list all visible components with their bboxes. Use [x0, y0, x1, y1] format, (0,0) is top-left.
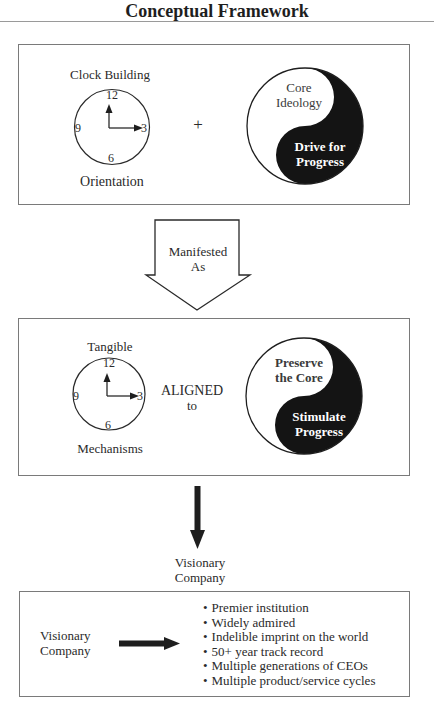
drive-for-progress-line-2: Progress [280, 154, 360, 169]
aligned-to-line-1: ALIGNED [152, 383, 232, 398]
title-divider [0, 21, 434, 22]
preserve-the-core-text: Preserve the Core [262, 355, 336, 385]
visionary-company-result-label: Visionary Company [160, 555, 240, 585]
aligned-to-text: ALIGNED to [152, 383, 232, 413]
clock-numeral-9: 9 [71, 389, 81, 404]
characteristic-item: Premier institution [203, 601, 375, 616]
characteristics-list: Premier institution Widely admired Indel… [203, 601, 375, 688]
clock-numeral-12: 12 [102, 88, 122, 103]
preserve-the-core-line-1: Preserve [262, 355, 336, 370]
orientation-label: Orientation [60, 174, 164, 189]
tangible-label: Tangible [70, 339, 150, 354]
stimulate-progress-text: Stimulate Progress [279, 409, 359, 439]
stimulate-progress-line-2: Progress [279, 424, 359, 439]
clock-numeral-12: 12 [99, 356, 119, 371]
core-ideology-line-2: Ideology [264, 95, 334, 110]
plus-operator: + [188, 117, 208, 132]
clock-numeral-6: 6 [104, 151, 118, 166]
visionary-company-result-line-2: Company [160, 570, 240, 585]
drive-for-progress-line-1: Drive for [280, 139, 360, 154]
characteristic-item: Indelible imprint on the world [203, 630, 375, 645]
clock-building-label: Clock Building [60, 67, 160, 82]
drive-for-progress-text: Drive for Progress [280, 139, 360, 169]
characteristic-item: Widely admired [203, 616, 375, 631]
characteristic-item: Multiple generations of CEOs [203, 659, 375, 674]
characteristic-item: 50+ year track record [203, 645, 375, 660]
characteristic-item: Multiple product/service cycles [203, 674, 375, 689]
mechanisms-label: Mechanisms [62, 441, 158, 456]
aligned-to-line-2: to [152, 398, 232, 413]
core-ideology-text: Core Ideology [264, 80, 334, 110]
manifested-as-line-1: Manifested [160, 244, 236, 259]
right-arrow-icon [119, 637, 181, 651]
clock-numeral-6: 6 [101, 418, 115, 433]
visionary-company-subject: Visionary Company [40, 628, 100, 658]
manifested-as-line-2: As [160, 259, 236, 274]
preserve-the-core-line-2: the Core [262, 370, 336, 385]
visionary-company-result-line-1: Visionary [160, 555, 240, 570]
stimulate-progress-line-1: Stimulate [279, 409, 359, 424]
visionary-company-subject-line-2: Company [40, 643, 100, 658]
manifested-as-text: Manifested As [160, 244, 236, 274]
clock-numeral-3: 3 [139, 121, 149, 136]
visionary-company-subject-line-1: Visionary [40, 628, 100, 643]
clock-numeral-3: 3 [135, 389, 145, 404]
down-arrow-icon [190, 486, 206, 550]
diagram-title: Conceptual Framework [0, 0, 434, 22]
clock-numeral-9: 9 [73, 121, 83, 136]
core-ideology-line-1: Core [264, 80, 334, 95]
